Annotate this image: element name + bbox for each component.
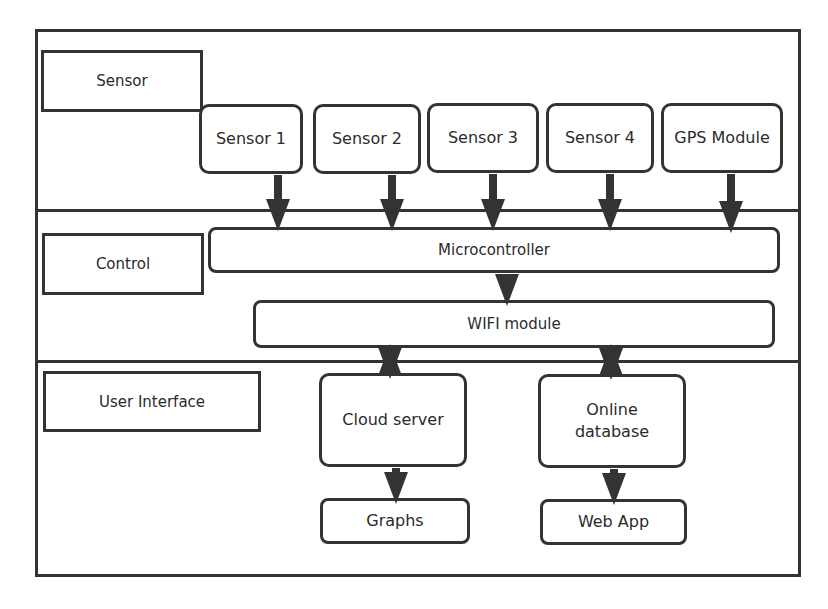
layer-label-user-interface-text: User Interface	[99, 393, 205, 411]
cloud-server-label: Cloud server	[342, 409, 443, 431]
layer-divider-sensor-control	[35, 209, 801, 212]
layer-divider-control-ui	[35, 360, 801, 363]
layer-label-user-interface: User Interface	[43, 371, 261, 432]
graphs-node: Graphs	[320, 498, 470, 544]
gps-module-node: GPS Module	[661, 103, 783, 173]
online-database-node: Online database	[538, 374, 686, 468]
layer-label-control: Control	[42, 233, 204, 295]
sensor-3-label: Sensor 3	[448, 127, 518, 149]
microcontroller-label: Microcontroller	[438, 240, 550, 260]
sensor-2-node: Sensor 2	[313, 104, 421, 174]
cloud-server-node: Cloud server	[319, 373, 467, 467]
sensor-2-label: Sensor 2	[332, 128, 402, 150]
sensor-1-node: Sensor 1	[199, 104, 303, 174]
web-app-label: Web App	[578, 511, 649, 533]
online-database-label-line1: Online	[586, 399, 638, 421]
layer-label-sensor-text: Sensor	[96, 72, 147, 90]
sensor-3-node: Sensor 3	[427, 103, 539, 173]
graphs-label: Graphs	[366, 510, 423, 532]
web-app-node: Web App	[540, 499, 687, 545]
online-database-label-line2: database	[575, 421, 649, 443]
wifi-module-label: WIFI module	[467, 314, 560, 334]
sensor-4-label: Sensor 4	[565, 127, 635, 149]
microcontroller-node: Microcontroller	[208, 227, 780, 273]
wifi-module-node: WIFI module	[253, 300, 775, 348]
sensor-1-label: Sensor 1	[216, 128, 286, 150]
gps-module-label: GPS Module	[674, 127, 769, 149]
sensor-4-node: Sensor 4	[546, 103, 654, 173]
layer-label-control-text: Control	[96, 255, 150, 273]
layer-label-sensor: Sensor	[41, 50, 203, 112]
